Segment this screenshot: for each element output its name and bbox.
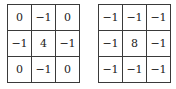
cell: −1 <box>123 57 147 83</box>
cell: −1 <box>56 31 80 57</box>
cell: 0 <box>8 57 32 83</box>
cell: −1 <box>32 57 56 83</box>
cell: 0 <box>56 5 80 31</box>
cell: 0 <box>56 57 80 83</box>
cell: −1 <box>147 31 171 57</box>
cell: −1 <box>123 5 147 31</box>
kernel-matrix-left: 0 −1 0 −1 4 −1 0 −1 0 <box>7 4 80 83</box>
cell: −1 <box>147 57 171 83</box>
cell: −1 <box>99 57 123 83</box>
cell: 0 <box>8 5 32 31</box>
cell: −1 <box>99 5 123 31</box>
cell: −1 <box>147 5 171 31</box>
kernel-matrix-right: −1 −1 −1 −1 8 −1 −1 −1 −1 <box>98 4 171 83</box>
cell: −1 <box>99 31 123 57</box>
cell: −1 <box>32 5 56 31</box>
cell: −1 <box>8 31 32 57</box>
cell: 8 <box>123 31 147 57</box>
cell: 4 <box>32 31 56 57</box>
